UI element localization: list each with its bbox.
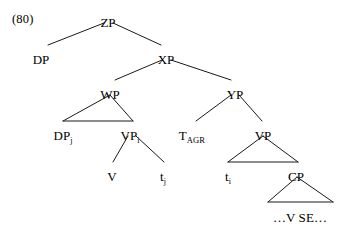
node-zp: ZP [100,16,115,29]
node-dp-j-label: DP [54,128,71,143]
branch-xp-yp [171,60,231,80]
node-vp: VP [255,129,272,142]
node-t-agr: TAGR [179,129,205,142]
branch-xp-wp [115,60,162,80]
node-wp: WP [100,88,120,101]
node-xp: XP [158,53,175,66]
node-vp-i-label: VP [121,128,138,143]
node-yp: YP [227,88,244,101]
branch-zp-xp [113,23,161,45]
node-trace-i-subscript: i [229,177,231,186]
syntax-tree-figure: (80) ZP DP XP WP YP DPj VPi TAGR VP V tj… [0,0,360,228]
node-vp-i-subscript: i [137,136,139,145]
branch-zp-dp [48,23,104,45]
node-v: V [107,170,116,183]
node-trace-j: tj [160,170,166,183]
node-cp: CP [288,170,304,183]
tree-branch-lines [0,0,360,228]
node-trace-i: ti [225,170,231,183]
node-trace-j-subscript: j [164,177,166,186]
node-t-agr-label: T [179,128,187,143]
branch-vpi-tj [136,136,164,162]
example-number: (80) [12,12,34,27]
node-t-agr-subscript: AGR [187,135,205,145]
node-vp-i: VPi [121,129,140,142]
node-dp-j-subscript: j [70,136,72,145]
node-dp-j: DPj [54,129,73,142]
leaf-v-se: …V SE… [273,211,327,224]
node-dp: DP [33,53,50,66]
